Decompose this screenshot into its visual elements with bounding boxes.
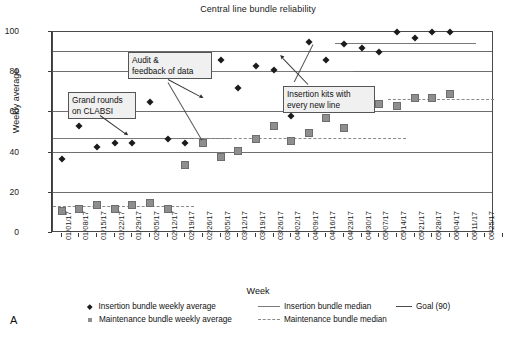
insertion-data-point	[146, 99, 153, 106]
x-tick-mark-14	[308, 233, 309, 237]
x-tick-mark-6	[167, 233, 168, 237]
y-axis-title: Weekly average	[11, 41, 21, 161]
maintenance-median-segment-1	[53, 206, 194, 207]
x-tick-mark-25	[502, 233, 503, 237]
legend-label: Maintenance bundle weekly average	[99, 315, 232, 324]
x-tick-mark-19	[396, 233, 397, 237]
solid-line-icon	[258, 306, 280, 307]
x-tick-label-01/08/17: 01/08/17	[81, 211, 90, 240]
x-tick-label-01/22/17: 01/22/17	[117, 211, 126, 240]
x-tick-label-01/01/17: 01/01/17	[64, 211, 73, 240]
maintenance-data-point	[411, 94, 419, 102]
x-tick-label-04/09/17: 04/09/17	[311, 211, 320, 240]
x-tick-mark-16	[343, 233, 344, 237]
maintenance-data-point	[375, 100, 383, 108]
x-tick-mark-4	[131, 233, 132, 237]
goal-line	[53, 51, 492, 52]
x-tick-mark-8	[202, 233, 203, 237]
insertion-data-point	[235, 85, 242, 92]
insertion-data-point	[446, 28, 453, 35]
dashed-line-icon	[258, 319, 280, 320]
legend-label: Insertion bundle median	[284, 302, 371, 311]
x-tick-label-05/07/17: 05/07/17	[381, 211, 390, 240]
maintenance-data-point	[234, 147, 242, 155]
x-tick-mark-3	[114, 233, 115, 237]
insertion-data-point	[58, 155, 65, 162]
legend-label: Insertion bundle weekly average	[99, 302, 216, 311]
gridline-40	[53, 152, 492, 153]
x-tick-mark-12	[273, 233, 274, 237]
maintenance-data-point	[393, 102, 401, 110]
x-tick-mark-5	[149, 233, 150, 237]
insertion-data-point	[217, 57, 224, 64]
insertion-data-point	[411, 34, 418, 41]
panel-letter: A	[10, 314, 17, 326]
diamond-marker-icon	[87, 304, 92, 309]
x-tick-label-06/25/17: 06/25/17	[487, 211, 496, 240]
grand-rounds-annotation: Grand rounds on CLABSI	[68, 92, 136, 119]
x-tick-label-03/05/17: 03/05/17	[223, 211, 232, 240]
x-tick-label-05/21/17: 05/21/17	[417, 211, 426, 240]
x-tick-label-04/16/17: 04/16/17	[328, 211, 337, 240]
x-tick-label-01/15/17: 01/15/17	[99, 211, 108, 240]
x-tick-label-03/26/17: 03/26/17	[276, 211, 285, 240]
maintenance-data-point	[252, 135, 260, 143]
y-tick-label-60: 60	[10, 106, 19, 116]
maintenance-data-point	[128, 201, 136, 209]
x-tick-label-06/11/17: 06/11/17	[470, 212, 479, 240]
x-tick-mark-15	[325, 233, 326, 237]
insertion-kits-annotation: Insertion kits with every new line	[283, 86, 375, 113]
maintenance-data-point	[446, 90, 454, 98]
insertion-data-point	[252, 63, 259, 70]
insertion-data-point	[270, 67, 277, 74]
insertion-data-point	[323, 57, 330, 64]
audit-feedback-annotation: Audit & feedback of data	[128, 52, 212, 79]
x-tick-mark-18	[378, 233, 379, 237]
x-tick-mark-9	[220, 233, 221, 237]
plot-area	[52, 31, 493, 232]
square-marker-icon	[88, 318, 92, 322]
x-tick-label-06/04/17: 06/04/17	[452, 211, 461, 240]
maintenance-median-segment-3	[388, 99, 494, 100]
insertion-data-point	[182, 139, 189, 146]
insertion-data-point	[429, 28, 436, 35]
maintenance-data-point	[340, 124, 348, 132]
x-tick-mark-1	[78, 233, 79, 237]
x-tick-mark-10	[237, 233, 238, 237]
insertion-data-point	[376, 49, 383, 56]
insertion-data-point	[288, 113, 295, 120]
x-tick-label-03/12/17: 03/12/17	[240, 211, 249, 240]
insertion-data-point	[393, 28, 400, 35]
maintenance-data-point	[322, 114, 330, 122]
insertion-median-segment-3	[335, 43, 476, 44]
maintenance-data-point	[270, 122, 278, 130]
x-tick-label-05/14/17: 05/14/17	[399, 211, 408, 240]
x-tick-label-02/26/17: 02/26/17	[205, 211, 214, 240]
x-tick-label-05/28/17: 05/28/17	[434, 211, 443, 240]
insertion-data-point	[94, 143, 101, 150]
x-tick-mark-2	[96, 233, 97, 237]
insertion-data-point	[129, 139, 136, 146]
y-tick-label-20: 20	[10, 187, 19, 197]
x-tick-mark-0	[61, 233, 62, 237]
x-tick-label-04/02/17: 04/02/17	[293, 211, 302, 240]
legend-item-solid-line: Insertion bundle median	[258, 302, 371, 311]
insertion-data-point	[341, 41, 348, 48]
maintenance-data-point	[428, 94, 436, 102]
x-tick-mark-21	[431, 233, 432, 237]
x-tick-label-02/05/17: 02/05/17	[152, 211, 161, 240]
x-tick-label-01/29/17: 01/29/17	[134, 211, 143, 240]
maintenance-data-point	[93, 201, 101, 209]
x-tick-mark-20	[414, 233, 415, 237]
maintenance-data-point	[217, 153, 225, 161]
legend-item-diamond-marker: Insertion bundle weekly average	[85, 302, 216, 311]
y-tick-label-80: 80	[10, 66, 19, 76]
y-tick-mark-0	[48, 232, 52, 233]
maintenance-data-point	[146, 199, 154, 207]
legend-label: Goal (90)	[416, 302, 450, 311]
x-tick-mark-13	[290, 233, 291, 237]
legend-item-square-marker: Maintenance bundle weekly average	[85, 315, 232, 324]
solid-line-dark-icon	[396, 306, 412, 307]
x-tick-label-04/23/17: 04/23/17	[346, 211, 355, 240]
x-tick-mark-23	[467, 233, 468, 237]
